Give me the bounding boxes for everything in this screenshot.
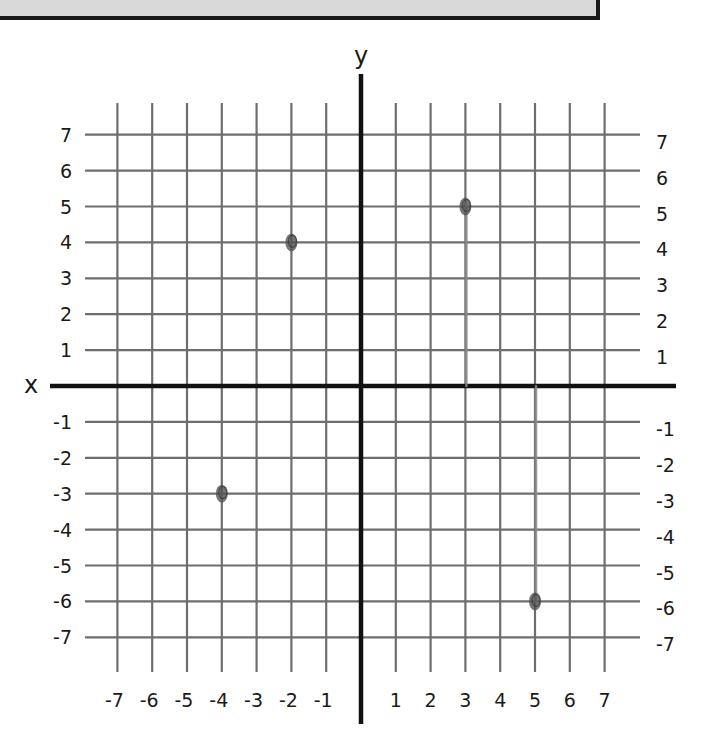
x-tick-label: -1 <box>314 689 333 711</box>
y-tick-label: 4 <box>656 238 668 260</box>
y-tick-label: 3 <box>656 274 668 296</box>
y-tick-label: 1 <box>60 339 72 361</box>
y-tick-label: 3 <box>60 267 72 289</box>
y-tick-label: -1 <box>656 418 675 440</box>
data-points <box>216 198 541 611</box>
y-tick-label: 1 <box>656 346 668 368</box>
y-tick-label: -6 <box>656 597 675 619</box>
x-tick-label: -6 <box>140 689 159 711</box>
x-tick-label: -3 <box>244 689 263 711</box>
y-tick-label: -4 <box>53 519 72 541</box>
y-tick-label: 2 <box>656 310 668 332</box>
y-tick-label: -6 <box>53 590 72 612</box>
y-tick-label: -7 <box>656 633 675 655</box>
y-tick-label: -7 <box>53 626 72 648</box>
y-tick-label: 7 <box>656 131 668 153</box>
y-tick-labels-right: 7654321-1-2-3-4-5-6-7 <box>656 131 675 656</box>
y-axis-label: y <box>354 42 368 70</box>
x-tick-label: 6 <box>564 689 576 711</box>
y-tick-label: -2 <box>53 447 72 469</box>
x-tick-label: -4 <box>209 689 228 711</box>
y-tick-label: -1 <box>53 411 72 433</box>
y-tick-label: -3 <box>53 483 72 505</box>
y-tick-label: -5 <box>53 555 72 577</box>
y-tick-label: 2 <box>60 303 72 325</box>
x-tick-label: 2 <box>425 689 437 711</box>
x-tick-label: -5 <box>175 689 194 711</box>
x-tick-label: 5 <box>529 689 541 711</box>
x-tick-label: -7 <box>105 689 124 711</box>
x-tick-label: 4 <box>494 689 506 711</box>
x-tick-label: 7 <box>599 689 611 711</box>
y-tick-label: 7 <box>60 124 72 146</box>
y-tick-label: 6 <box>656 167 668 189</box>
x-tick-label: -2 <box>279 689 298 711</box>
x-axis-label: x <box>24 371 38 399</box>
y-tick-label: -2 <box>656 454 675 476</box>
x-tick-label: 3 <box>459 689 471 711</box>
y-tick-label: 6 <box>60 160 72 182</box>
y-tick-label: 4 <box>60 231 72 253</box>
y-tick-label: -3 <box>656 490 675 512</box>
x-tick-label: 1 <box>390 689 402 711</box>
x-tick-labels: -7-6-5-4-3-2-11234567 <box>105 689 611 711</box>
coordinate-plane: 7654321-1-2-3-4-5-6-7 7654321-1-2-3-4-5-… <box>0 0 711 750</box>
y-tick-label: 5 <box>60 196 72 218</box>
y-tick-label: -5 <box>656 562 675 584</box>
y-tick-label: -4 <box>656 526 675 548</box>
y-tick-label: 5 <box>656 203 668 225</box>
